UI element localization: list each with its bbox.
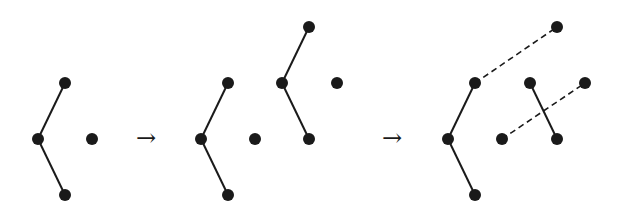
dashed-edge — [502, 83, 585, 139]
solid-edge — [448, 139, 475, 195]
solid-edge — [38, 83, 65, 139]
diagram-canvas: → → — [0, 0, 620, 210]
graph-node — [86, 133, 98, 145]
graph-node — [59, 189, 71, 201]
dashed-edge — [475, 27, 557, 83]
stage-3-panel — [442, 21, 591, 201]
transition-arrow-2: → — [382, 126, 402, 150]
graph-node — [496, 133, 508, 145]
graph-node — [276, 77, 288, 89]
solid-edge — [282, 83, 309, 139]
graph-node — [524, 77, 536, 89]
solid-edge — [282, 27, 309, 83]
solid-edge — [201, 139, 228, 195]
solid-edge — [38, 139, 65, 195]
stage-2-panel — [195, 21, 343, 201]
stage-1-panel — [32, 77, 98, 201]
graph-node — [222, 189, 234, 201]
graph-node — [59, 77, 71, 89]
graph-node — [195, 133, 207, 145]
graph-node — [32, 133, 44, 145]
solid-edge — [201, 83, 228, 139]
graph-node — [551, 133, 563, 145]
graph-node — [469, 189, 481, 201]
graph-node — [331, 77, 343, 89]
graph-node — [222, 77, 234, 89]
graph-node — [551, 21, 563, 33]
graph-node — [303, 21, 315, 33]
graph-node — [579, 77, 591, 89]
graph-drawing — [0, 0, 620, 210]
graph-node — [469, 77, 481, 89]
transition-arrow-1: → — [136, 126, 156, 150]
graph-node — [442, 133, 454, 145]
graph-node — [249, 133, 261, 145]
solid-edge — [448, 83, 475, 139]
graph-node — [303, 133, 315, 145]
